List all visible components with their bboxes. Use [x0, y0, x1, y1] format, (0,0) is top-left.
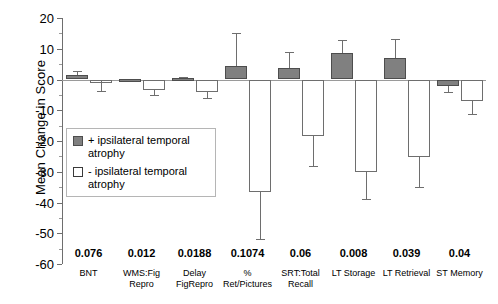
error-bar-cap [468, 114, 477, 115]
y-tick-label: -50 [14, 227, 54, 240]
y-tick-label: -40 [14, 196, 54, 209]
error-bar-cap [391, 39, 400, 40]
bar-positive-atrophy [172, 78, 194, 81]
bar-group [221, 18, 274, 264]
error-bar [342, 40, 343, 54]
error-bar-cap [73, 71, 82, 72]
bar-negative-atrophy [143, 80, 165, 91]
bar-negative-atrophy [302, 80, 324, 137]
legend-label-negative: - ipsilateral temporalatrophy [88, 165, 187, 190]
p-value-label: 0.012 [128, 247, 156, 259]
error-bar [448, 86, 449, 93]
error-bar-cap [256, 239, 265, 240]
p-value-label: 0.039 [393, 247, 421, 259]
chart-root: Mean Change in Score 20100-10-20-30-40-5… [0, 0, 498, 304]
bar-group [274, 18, 327, 264]
y-tick-label: -10 [14, 104, 54, 117]
error-bar [395, 39, 396, 58]
y-tick-label: 10 [14, 42, 54, 55]
y-tick-label: -20 [14, 135, 54, 148]
bar-positive-atrophy [66, 75, 88, 80]
error-bar-cap [444, 92, 453, 93]
error-bar-cap [150, 95, 159, 96]
legend-swatch-filled-icon [73, 136, 83, 146]
error-bar [260, 192, 261, 239]
bar-negative-atrophy [461, 80, 483, 102]
x-axis-label: ST Memory [429, 268, 491, 279]
error-bar-cap [362, 199, 371, 200]
p-value-label: 0.04 [449, 247, 470, 259]
y-tick-label: -30 [14, 165, 54, 178]
bar-negative-atrophy [196, 80, 218, 93]
p-value-label: 0.06 [290, 247, 311, 259]
error-bar [289, 52, 290, 69]
error-bar [472, 101, 473, 114]
legend-item-negative: - ipsilateral temporalatrophy [73, 165, 209, 190]
bar-positive-atrophy [384, 58, 406, 80]
error-bar-cap [285, 52, 294, 53]
bar-group [327, 18, 380, 264]
error-bar [236, 33, 237, 65]
p-value-row: 0.0760.0120.01880.10740.060.0080.0390.04 [62, 247, 486, 263]
bar-positive-atrophy [278, 68, 300, 79]
error-bar-cap [179, 77, 188, 78]
bar-group [433, 18, 486, 264]
legend-label-positive: + ipsilateral temporalatrophy [88, 134, 190, 159]
p-value-label: 0.1074 [231, 247, 265, 259]
error-bar [101, 81, 102, 90]
error-bar-cap [415, 187, 424, 188]
bar-positive-atrophy [225, 66, 247, 80]
y-tick-label: -60 [14, 258, 54, 271]
bar-negative-atrophy [355, 80, 377, 172]
bar-group [380, 18, 433, 264]
y-tick-label: 20 [14, 12, 54, 25]
error-bar [313, 136, 314, 166]
p-value-label: 0.008 [340, 247, 368, 259]
error-bar-cap [338, 40, 347, 41]
error-bar-cap [309, 166, 318, 167]
y-tick [57, 264, 62, 265]
error-bar [419, 157, 420, 187]
p-value-label: 0.076 [75, 247, 103, 259]
legend-item-positive: + ipsilateral temporalatrophy [73, 134, 209, 159]
bar-positive-atrophy [119, 79, 141, 82]
error-bar-cap [203, 98, 212, 99]
x-axis-label-row: BNTWMS:FigReproDelayFigRepro%Ret/Picture… [62, 268, 486, 302]
error-bar-cap [97, 91, 106, 92]
y-tick-label: 0 [14, 73, 54, 86]
bar-negative-atrophy [408, 80, 430, 157]
bar-negative-atrophy [249, 80, 271, 192]
bar-positive-atrophy [331, 53, 353, 79]
p-value-label: 0.0188 [178, 247, 212, 259]
legend: + ipsilateral temporalatrophy - ipsilate… [66, 128, 216, 197]
legend-swatch-open-icon [73, 167, 83, 177]
error-bar [366, 172, 367, 200]
error-bar-cap [232, 33, 241, 34]
